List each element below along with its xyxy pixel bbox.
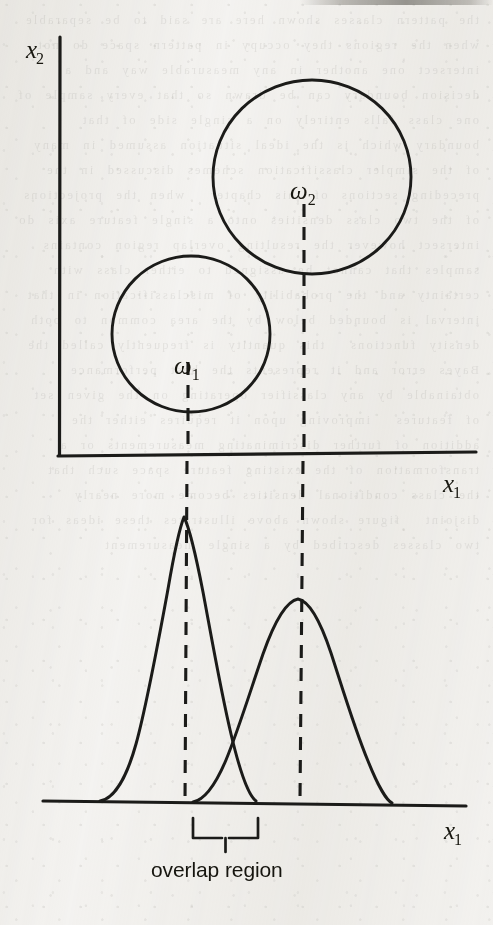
figure-drawing [0,0,493,925]
overlap-region-brace [193,818,258,852]
upper-plot-y-axis [60,37,61,455]
upper-plot-y-axis-label: x2 [26,36,44,68]
upper-plot-x-axis [58,452,476,456]
cluster-label-omega-1: ω1 [174,352,200,384]
lower-plot-group [43,517,466,852]
density-curve-omega-1 [100,517,256,801]
overlap-region-caption: overlap region [151,858,283,882]
projection-line-omega-2-lower [300,461,303,800]
lower-plot-x-axis [43,801,466,806]
cluster-label-omega-2: ω2 [290,177,316,209]
figure-page: the pattern classes shown here are said … [0,0,493,925]
cluster-circle-omega-1 [112,256,270,412]
projection-line-omega-1-lower [185,461,187,802]
upper-plot-x-axis-label: x1 [443,470,461,502]
upper-plot-group [58,37,476,802]
lower-plot-x-axis-label: x1 [444,817,462,849]
